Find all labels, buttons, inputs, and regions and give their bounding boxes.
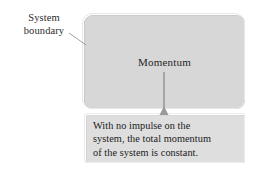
vector-overlay	[0, 0, 255, 176]
connector-arrowhead-icon	[160, 106, 169, 115]
figure-canvas: System boundary Momentum With no impulse…	[0, 0, 255, 176]
boundary-leader-line	[69, 33, 86, 45]
